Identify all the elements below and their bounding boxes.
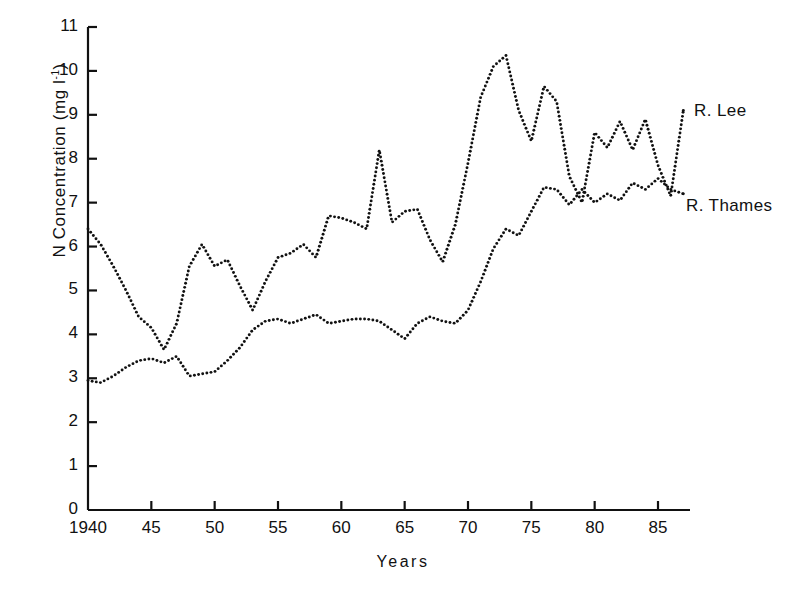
data-point — [285, 253, 288, 256]
data-point — [536, 112, 539, 115]
data-point — [520, 115, 523, 118]
data-point — [451, 232, 454, 235]
data-point — [644, 120, 647, 123]
data-point — [658, 168, 661, 171]
data-point — [628, 142, 631, 145]
data-point — [178, 311, 181, 314]
data-point — [559, 193, 562, 196]
data-point — [651, 144, 654, 147]
data-point — [549, 92, 552, 95]
data-point — [510, 79, 513, 82]
data-point — [264, 320, 267, 323]
data-point — [563, 148, 566, 151]
data-point — [367, 318, 370, 321]
data-point — [482, 273, 485, 276]
data-point — [620, 197, 623, 200]
data-point — [537, 108, 540, 111]
data-point — [210, 371, 213, 374]
data-point — [292, 321, 295, 324]
data-point — [471, 300, 474, 303]
data-point — [526, 217, 529, 220]
y-tick-label: 1 — [50, 455, 78, 475]
data-point — [168, 338, 171, 341]
data-point — [460, 195, 463, 198]
data-point — [232, 271, 235, 274]
data-point — [89, 231, 92, 234]
data-point — [563, 144, 566, 147]
data-point — [476, 288, 479, 291]
data-point — [677, 191, 680, 194]
data-point — [368, 212, 371, 215]
data-point — [131, 303, 134, 306]
data-point — [194, 254, 197, 257]
data-point — [458, 203, 461, 206]
data-point — [97, 241, 100, 244]
data-point — [573, 198, 576, 201]
data-point — [623, 131, 626, 134]
data-point — [584, 182, 587, 185]
x-tick-label: 55 — [248, 518, 308, 538]
data-point — [121, 369, 124, 372]
data-point — [122, 284, 125, 287]
data-point — [250, 330, 253, 333]
data-point — [513, 91, 516, 94]
data-point — [433, 247, 436, 250]
data-point — [521, 119, 524, 122]
data-point — [424, 228, 427, 231]
y-tick-label: 8 — [50, 148, 78, 168]
data-point — [320, 237, 323, 240]
data-point — [235, 350, 238, 353]
data-point — [192, 258, 195, 261]
data-point — [323, 229, 326, 232]
data-point — [292, 250, 295, 253]
data-point — [498, 60, 501, 63]
x-tick-label: 80 — [565, 518, 625, 538]
data-point — [158, 340, 161, 343]
data-point — [618, 121, 621, 124]
data-point — [627, 138, 630, 141]
data-point — [490, 253, 493, 256]
data-point — [185, 278, 188, 281]
data-point — [469, 150, 472, 153]
data-point — [472, 133, 475, 136]
data-point — [462, 183, 465, 186]
data-point — [622, 127, 625, 130]
data-point — [186, 372, 189, 375]
data-point — [653, 152, 656, 155]
data-point — [512, 231, 515, 234]
x-tick-label: 65 — [375, 518, 435, 538]
data-point — [509, 75, 512, 78]
data-point — [316, 253, 319, 256]
data-point — [570, 201, 573, 204]
data-point — [500, 235, 503, 238]
data-point — [522, 225, 525, 228]
data-point — [378, 151, 381, 154]
data-point — [425, 317, 428, 320]
data-point — [273, 263, 276, 266]
data-point — [669, 188, 672, 191]
data-point — [265, 278, 268, 281]
data-point — [418, 212, 421, 215]
data-point — [373, 179, 376, 182]
data-point — [110, 262, 113, 265]
data-point — [391, 220, 394, 223]
y-tick-label: 4 — [50, 323, 78, 343]
data-point — [419, 216, 422, 219]
data-point — [311, 252, 314, 255]
data-point — [200, 244, 203, 247]
data-point — [603, 142, 606, 145]
data-point — [663, 183, 666, 186]
data-point — [364, 227, 367, 230]
data-point — [110, 376, 113, 379]
y-tick-label: 0 — [50, 499, 78, 519]
data-point — [258, 294, 261, 297]
data-point — [676, 148, 679, 151]
data-point — [674, 165, 677, 168]
data-point — [502, 231, 505, 234]
data-point — [326, 321, 329, 324]
data-point — [206, 253, 209, 256]
data-point — [535, 117, 538, 120]
data-point — [280, 319, 283, 322]
data-point — [175, 355, 178, 358]
data-point — [179, 306, 182, 309]
